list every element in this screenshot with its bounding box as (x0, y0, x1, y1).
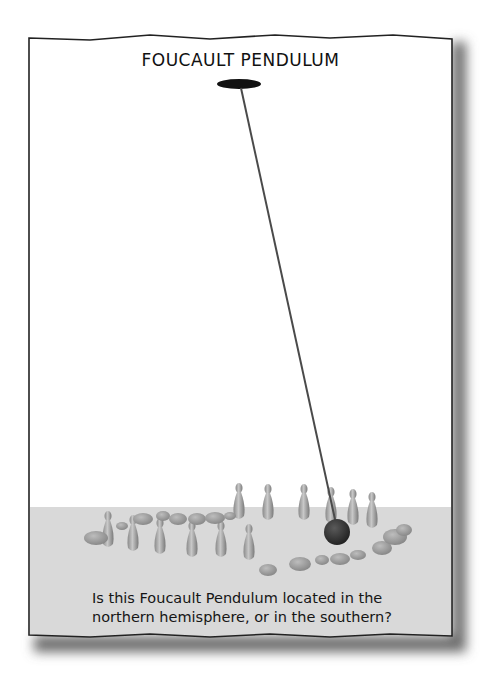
pendulum-anchor (217, 79, 261, 89)
panel-caption: Is this Foucault Pendulum located in the… (92, 589, 432, 627)
caption-line-1: Is this Foucault Pendulum located in the (92, 589, 432, 608)
caption-line-2: northern hemisphere, or in the southern? (92, 608, 432, 627)
panel-title: FOUCAULT PENDULUM (29, 50, 452, 70)
pendulum-bob (324, 519, 350, 545)
comic-panel (0, 0, 491, 678)
